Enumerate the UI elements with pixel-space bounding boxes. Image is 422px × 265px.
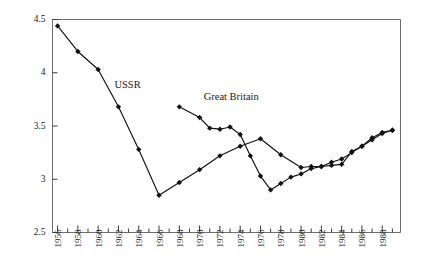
x-tick-label-1962: 1962 [114,230,124,248]
y-tick-label-4.5: 4.5 [34,14,46,24]
x-tick-label-1956: 1956 [53,229,63,248]
x-tick-label-1958: 1958 [73,229,83,248]
x-tick-label-1976: 1976 [256,229,266,248]
x-tick-label-1982: 1982 [317,230,327,248]
x-tick-label-1970: 1970 [195,229,205,248]
x-tick-label-1980: 1980 [297,229,307,248]
chart-container: 2.533.544.5 1956195819601962196419661968… [0,0,422,265]
series-label-ussr: USSR [114,79,140,90]
x-tick-label-1972: 1972 [215,230,225,248]
line-chart: 2.533.544.5 1956195819601962196419661968… [0,0,422,265]
y-tick-label-3: 3 [41,174,46,184]
y-tick-label-4: 4 [41,67,46,77]
x-tick-label-1986: 1986 [357,229,367,248]
y-tick-label-3.5: 3.5 [34,121,46,131]
x-tick-label-1984: 1984 [337,229,347,248]
y-tick-label-2.5: 2.5 [34,227,46,237]
x-tick-label-1960: 1960 [94,229,104,248]
series-label-great-britain: Great Britain [204,91,260,102]
x-axis-tick-labels: 1956195819601962196419661968197019721974… [53,229,388,248]
x-tick-label-1964: 1964 [134,229,144,248]
x-tick-label-1978: 1978 [276,229,286,248]
x-tick-label-1988: 1988 [378,229,388,248]
x-tick-label-1974: 1974 [236,229,246,248]
chart-background [0,0,422,265]
x-tick-label-1966: 1966 [155,229,165,248]
x-tick-label-1968: 1968 [175,229,185,248]
